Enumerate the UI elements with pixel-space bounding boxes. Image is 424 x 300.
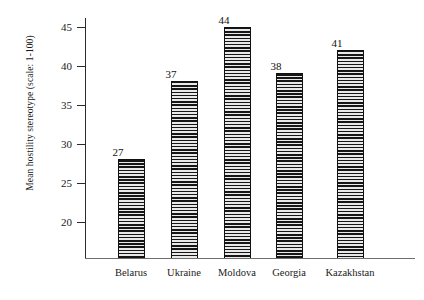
y-tick-label-40: 40 (32, 60, 72, 72)
y-tick-label-20: 20 (32, 216, 72, 228)
y-tick-mark-35 (77, 105, 85, 106)
bar-belarus (118, 159, 145, 258)
y-tick-mark-30 (77, 144, 85, 145)
bar-moldova (224, 27, 251, 258)
y-tick-label-25: 25 (32, 177, 72, 189)
y-tick-mark-25 (77, 183, 85, 184)
bar-value-georgia: 38 (256, 60, 296, 72)
bar-chart: Mean hostility stereotype (scale: 1-100)… (0, 0, 424, 300)
bar-value-ukraine: 37 (151, 68, 191, 80)
y-tick-label-45: 45 (32, 21, 72, 33)
y-tick-mark-45 (77, 27, 85, 28)
y-tick-label-30: 30 (32, 138, 72, 150)
bar-ukraine (171, 81, 198, 258)
bar-value-moldova: 44 (204, 14, 244, 26)
bar-value-kazakhstan: 41 (317, 37, 357, 49)
bar-kazakhstan (337, 50, 364, 258)
bar-georgia (276, 73, 303, 258)
y-tick-label-35: 35 (32, 99, 72, 111)
y-tick-mark-40 (77, 66, 85, 67)
x-category-label-kazakhstan: Kazakhstan (305, 267, 395, 278)
bar-value-belarus: 27 (98, 146, 138, 158)
y-tick-mark-20 (77, 222, 85, 223)
plot-area (85, 18, 415, 258)
